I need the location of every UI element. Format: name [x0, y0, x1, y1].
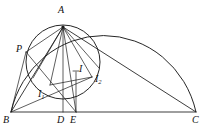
geometry-canvas [0, 0, 213, 134]
point-label-I2: I2 [95, 74, 102, 84]
cevian-A-to-I1 [50, 27, 63, 85]
chord-B-to-P [11, 52, 26, 112]
point-label-B: B [3, 115, 9, 125]
geometry-figure: A B C D E P I I1 I2 [0, 0, 213, 134]
point-label-I1: I1 [38, 89, 45, 99]
point-label-I1-sub: 1 [41, 93, 44, 100]
circumcircle-arc [11, 36, 196, 112]
point-label-I: I [79, 64, 82, 74]
point-label-A: A [58, 5, 64, 15]
point-label-P: P [16, 44, 22, 54]
point-label-E: E [70, 115, 76, 125]
vertex-dot-A [61, 25, 64, 28]
point-label-C: C [192, 115, 199, 125]
point-label-D: D [57, 115, 64, 125]
point-label-I2-sub: 2 [98, 78, 101, 85]
side-AC [63, 27, 196, 112]
